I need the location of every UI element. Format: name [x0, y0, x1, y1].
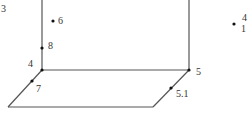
label-5: 5 [196, 67, 201, 77]
label-4: 4 [28, 59, 33, 69]
diagram-canvas [0, 0, 248, 113]
point-p5 [187, 68, 190, 71]
point-p-right [232, 22, 235, 25]
label-8: 8 [48, 41, 53, 51]
point-p8 [40, 46, 43, 49]
point-p7 [30, 79, 33, 82]
label-3: 3 [1, 4, 6, 14]
label-7: 7 [36, 84, 41, 94]
label-right-bottom: 1 [241, 24, 246, 34]
point-p5_1 [169, 86, 172, 89]
label-6: 6 [58, 16, 63, 26]
point-p4 [40, 68, 43, 71]
label-5-1: 5.1 [176, 89, 189, 99]
point-p6 [51, 19, 54, 22]
label-right-top: 4 [242, 13, 247, 23]
